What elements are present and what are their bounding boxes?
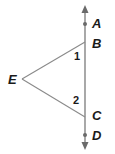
- point-d-dot: [83, 133, 87, 137]
- geometry-diagram: A B E C D 1 2: [0, 0, 115, 154]
- label-d: D: [92, 128, 102, 143]
- label-a: A: [91, 16, 101, 31]
- label-b: B: [92, 36, 101, 51]
- angle-1-label: 1: [74, 50, 80, 62]
- point-a-dot: [83, 22, 87, 26]
- arrow-down-icon: [82, 142, 89, 150]
- angle-2-label: 2: [73, 94, 79, 106]
- label-c: C: [92, 108, 102, 123]
- label-e: E: [8, 72, 17, 87]
- arrow-up-icon: [82, 5, 89, 13]
